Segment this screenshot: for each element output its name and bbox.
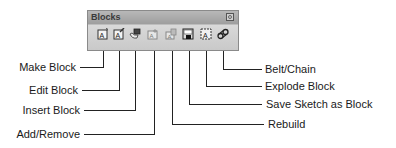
toolbar-titlebar[interactable]: Blocks	[88, 11, 238, 25]
blocks-toolbar: Blocks A A	[87, 10, 239, 51]
svg-text:A: A	[150, 33, 154, 39]
edit-block-button[interactable]: A	[113, 27, 125, 40]
leader-rebuild-v	[172, 51, 173, 125]
leader-explode-block-h	[206, 86, 262, 87]
callout-edit-block: Edit Block	[29, 84, 78, 96]
leader-make-block-v	[103, 51, 104, 68]
leader-add-remove-h	[84, 134, 155, 135]
save-sketch-as-block-button[interactable]	[182, 27, 194, 40]
callout-rebuild: Rebuild	[268, 118, 305, 130]
callout-explode-block: Explode Block	[265, 80, 335, 92]
rebuild-icon: A	[165, 28, 177, 40]
callout-save-sketch-as-block: Save Sketch as Block	[266, 98, 372, 110]
explode-block-icon: A	[200, 28, 212, 40]
belt-chain-icon	[217, 28, 229, 40]
callout-insert-block: Insert Block	[23, 104, 80, 116]
insert-block-button[interactable]	[129, 27, 141, 40]
explode-block-button[interactable]: A	[200, 27, 212, 40]
rebuild-button[interactable]: A	[165, 27, 177, 40]
make-block-icon: A	[97, 28, 109, 40]
save-sketch-icon	[182, 28, 194, 40]
close-icon[interactable]	[226, 13, 234, 21]
leader-edit-block-h	[82, 90, 120, 91]
toolbar-icon-row: A A A	[88, 27, 238, 43]
callout-belt-chain: Belt/Chain	[265, 63, 316, 75]
leader-explode-block-v	[206, 51, 207, 87]
leader-make-block-h	[80, 67, 104, 68]
leader-save-sketch-h	[189, 104, 262, 105]
insert-block-icon	[129, 28, 141, 40]
leader-save-sketch-v	[189, 51, 190, 105]
add-remove-icon: A	[147, 28, 159, 40]
leader-belt-chain-h	[223, 69, 262, 70]
callout-add-remove: Add/Remove	[16, 128, 80, 140]
belt-chain-button[interactable]	[217, 27, 229, 40]
make-block-button[interactable]: A	[97, 27, 109, 40]
leader-rebuild-h	[172, 124, 264, 125]
svg-text:A: A	[203, 31, 208, 38]
add-remove-button[interactable]: A	[147, 27, 159, 40]
svg-text:A: A	[116, 32, 121, 39]
svg-text:A: A	[100, 32, 105, 39]
leader-insert-block-h	[84, 110, 136, 111]
leader-add-remove-v	[154, 51, 155, 135]
edit-block-icon: A	[113, 28, 125, 40]
leader-edit-block-v	[119, 51, 120, 91]
toolbar-title: Blocks	[91, 11, 121, 24]
leader-belt-chain-v	[223, 51, 224, 70]
leader-insert-block-v	[135, 51, 136, 111]
callout-make-block: Make Block	[19, 61, 76, 73]
